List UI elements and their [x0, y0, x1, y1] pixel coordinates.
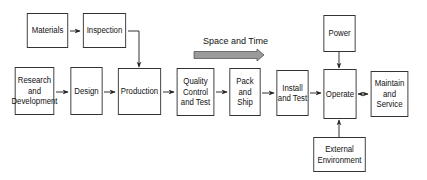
- node-inspection: Inspection: [83, 13, 126, 48]
- node-maintain: Maintain and Service: [371, 71, 409, 117]
- node-research: Research and Development: [15, 67, 55, 115]
- node-design: Design: [70, 67, 102, 115]
- node-install: Install and Test: [276, 70, 308, 116]
- node-quality: Quality Control and Test: [177, 68, 215, 116]
- flow-arrow-icon: [194, 49, 264, 61]
- node-power: Power: [323, 15, 355, 52]
- node-environment: External Environment: [313, 137, 365, 172]
- node-operate: Operate: [323, 69, 356, 119]
- edge-inspection-production: [128, 31, 139, 67]
- flow-label: Space and Time: [203, 36, 268, 46]
- node-pack-ship: Pack and Ship: [229, 68, 260, 116]
- node-production: Production: [118, 68, 161, 115]
- node-materials: Materials: [27, 13, 68, 48]
